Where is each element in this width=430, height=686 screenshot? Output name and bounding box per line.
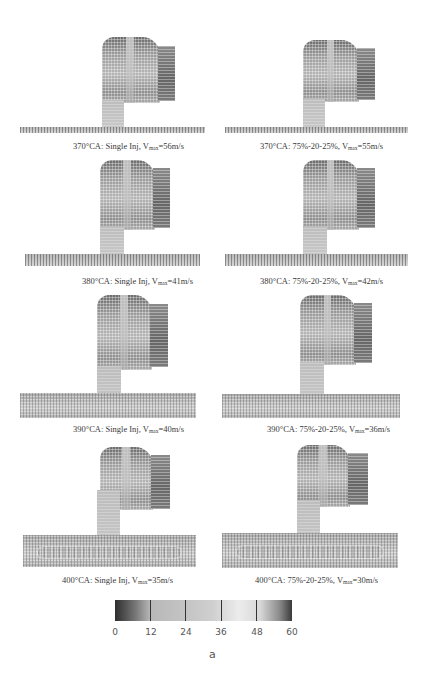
colorbar-tick: 36 <box>215 627 226 637</box>
crankcase-port <box>20 393 196 418</box>
bowl-side-region <box>357 168 375 228</box>
bowl-velocity-field <box>300 295 356 365</box>
vmax-value: =30m/s <box>353 575 379 585</box>
bowl-side-region <box>153 168 170 228</box>
crankcase-port <box>25 254 200 266</box>
crankcase-port <box>222 533 398 568</box>
colorbar-divider <box>150 600 151 621</box>
vmax-value: =40m/s <box>158 424 184 434</box>
vortex-region <box>37 546 182 559</box>
panel-caption: 400°CA: 75%-20-25%, Vmax=30m/s <box>255 575 378 585</box>
caption-text: 380°CA: Single Inj, <box>82 276 152 286</box>
panel-caption: 390°CA: Single Inj, Vmax=40m/s <box>73 424 184 434</box>
figure-label: a <box>209 648 216 661</box>
panel-caption: 400°CA: Single Inj, Vmax=35m/s <box>62 575 173 585</box>
crankcase-port <box>225 254 408 266</box>
vmax-subscript: max <box>343 579 352 585</box>
bowl-side-region <box>348 453 368 505</box>
panel-400-multi: 400°CA: 75%-20-25%, Vmax=30m/s <box>215 0 430 150</box>
panel-400-single: 400°CA: Single Inj, Vmax=35m/s <box>0 0 215 150</box>
panel-caption: 380°CA: 75%-20-25%, Vmax=42m/s <box>260 276 383 286</box>
vortex-region <box>236 545 384 559</box>
colorbar-divider <box>256 600 257 621</box>
panel-caption: 380°CA: Single Inj, Vmax=41m/s <box>82 276 193 286</box>
vmax-subscript: max <box>355 428 364 434</box>
colorbar-tick: 24 <box>180 627 191 637</box>
caption-text: 390°CA: Single Inj, <box>73 424 143 434</box>
bowl-velocity-field <box>303 160 359 230</box>
bowl-velocity-field <box>100 160 155 230</box>
panel-caption: 390°CA: 75%-20-25%, Vmax=36m/s <box>267 424 390 434</box>
crankcase-port <box>222 394 400 418</box>
caption-text: 390°CA: 75%-20-25%, <box>267 424 349 434</box>
colorbar-tick: 12 <box>145 627 156 637</box>
colorbar-divider <box>221 600 222 621</box>
colorbar-tick: 0 <box>112 627 118 637</box>
bowl-side-region <box>354 303 372 363</box>
colorbar-divider <box>185 600 186 621</box>
crankcase-port <box>23 535 196 567</box>
caption-text: 400°CA: Single Inj, <box>62 575 132 585</box>
caption-text: 380°CA: 75%-20-25%, <box>260 276 342 286</box>
vmax-value: =41m/s <box>167 276 193 286</box>
colorbar-tick: 48 <box>251 627 262 637</box>
vmax-value: =42m/s <box>358 276 384 286</box>
bowl-velocity-field <box>297 445 350 507</box>
caption-text: 400°CA: 75%-20-25%, <box>255 575 337 585</box>
vmax-value: =35m/s <box>147 575 173 585</box>
velocity-colorbar <box>115 600 292 621</box>
colorbar-tick: 60 <box>286 627 297 637</box>
bowl-side-region <box>150 304 168 367</box>
bowl-velocity-field <box>97 295 152 370</box>
vmax-value: =36m/s <box>365 424 391 434</box>
bowl-side-region <box>151 455 170 509</box>
vmax-subscript: max <box>348 280 357 286</box>
